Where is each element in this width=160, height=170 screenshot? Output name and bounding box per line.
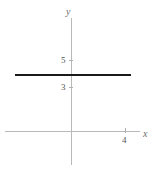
y-tick-label-3: 3	[61, 83, 66, 92]
x-tick-label-4: 4	[122, 136, 127, 145]
y-tick-mark-5	[69, 60, 73, 61]
y-tick-label-5: 5	[61, 56, 66, 65]
y-axis-label: y	[66, 7, 70, 17]
constant-function-line	[15, 74, 131, 76]
coordinate-plane-figure: y x 5 3 4	[0, 0, 160, 170]
x-tick-mark-4	[125, 128, 126, 133]
y-axis-line	[71, 18, 72, 165]
x-axis-line	[5, 131, 140, 132]
y-tick-mark-3	[69, 87, 73, 88]
x-axis-label: x	[143, 129, 147, 139]
